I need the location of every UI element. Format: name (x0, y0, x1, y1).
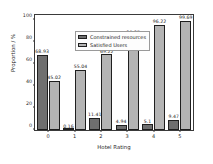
bar-fill (154, 25, 165, 130)
legend-item-satisfied-users: Satisfied Users (78, 42, 146, 48)
bar-satisfied-users[interactable]: 96.22 (154, 15, 165, 130)
bar-value-label: 68.93 (35, 49, 49, 54)
legend-label: Constrained resources (90, 34, 146, 40)
x-tick-mark (48, 130, 49, 132)
bar-fill (37, 55, 48, 130)
x-tick-mark (74, 130, 75, 132)
plot-area: 020406080100 012345 68.9345.020.1655.041… (34, 14, 194, 131)
bar-value-label: 0.16 (63, 124, 74, 129)
bar-group: 68.9345.02 (35, 15, 61, 130)
x-tick-mark (179, 130, 180, 132)
bar-fill (101, 54, 112, 130)
bar-constrained-resources[interactable]: 9.47 (168, 15, 179, 130)
y-tick-label: 20 (26, 101, 35, 106)
y-axis-title: Proportion / % (10, 18, 16, 88)
bar-group: 9.4799.69 (167, 15, 193, 130)
bar-fill (168, 120, 179, 130)
bar-fill (142, 124, 153, 130)
legend-item-constrained-resources: Constrained resources (78, 34, 146, 40)
bar-fill (75, 70, 86, 130)
bar-satisfied-users[interactable]: 45.02 (49, 15, 60, 130)
bar-value-label: 5.1 (144, 119, 152, 124)
bar-value-label: 99.69 (179, 15, 193, 20)
bar-chart-figure: Proportion / % Hotel Rating 020406080100… (0, 0, 213, 164)
bar-constrained-resources[interactable]: 68.93 (37, 15, 48, 130)
bar-constrained-resources[interactable]: 0.16 (63, 15, 74, 130)
chart-legend: Constrained resources Satisfied Users (75, 31, 150, 51)
x-tick-mark (100, 130, 101, 132)
bar-satisfied-users[interactable]: 99.69 (180, 15, 191, 130)
bar-value-label: 4.94 (116, 119, 127, 124)
y-tick-label: 60 (26, 57, 35, 62)
x-axis-title: Hotel Rating (34, 144, 194, 150)
bar-value-label: 11.41 (88, 112, 102, 117)
bar-fill (49, 81, 60, 130)
x-tick-mark (153, 130, 154, 132)
bar-value-label: 55.04 (74, 64, 88, 69)
x-tick-mark (127, 130, 128, 132)
y-tick-label: 100 (23, 13, 35, 18)
bar-fill (116, 125, 127, 130)
legend-swatch-icon (78, 43, 87, 47)
legend-swatch-icon (78, 35, 87, 39)
bar-fill (89, 118, 100, 130)
y-tick-label: 80 (26, 35, 35, 40)
legend-label: Satisfied Users (90, 42, 127, 48)
bar-fill (180, 21, 191, 130)
bar-value-label: 96.22 (153, 19, 167, 24)
bar-value-label: 9.47 (168, 114, 179, 119)
y-tick-label: 40 (26, 79, 35, 84)
bar-value-label: 45.02 (47, 75, 61, 80)
